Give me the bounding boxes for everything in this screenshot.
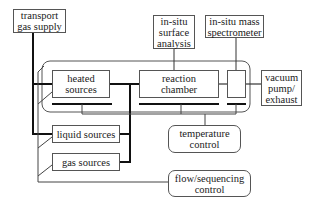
transport-gas-supply-box: transport gas supply (13, 9, 66, 33)
insitu-mass-spectrometer-box: in-situ mass spectrometer (205, 15, 264, 38)
reaction-chamber-box: reaction chamber (139, 70, 219, 98)
mass-spectrometer-port-box (227, 70, 246, 98)
temperature-control-box: temperature control (168, 125, 241, 153)
insitu-surface-analysis-box: in-situ surface analysis (153, 15, 195, 49)
liquid-sources-box: liquid sources (52, 125, 120, 143)
vacuum-pump-exhaust-box: vacuum pump/ exhaust (261, 70, 302, 106)
gas-sources-box: gas sources (52, 153, 120, 171)
heated-sources-box: heated sources (52, 70, 110, 98)
flow-sequencing-control-box: flow/sequencing control (168, 170, 251, 197)
